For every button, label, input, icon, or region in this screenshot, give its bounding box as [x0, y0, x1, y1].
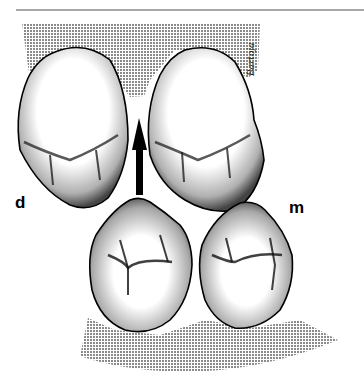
artist-signature: Bartoja	[246, 43, 256, 76]
upper-left-molar	[18, 48, 128, 208]
arrow-up-icon	[132, 118, 147, 195]
lower-right-molar	[200, 202, 293, 328]
distal-label: d	[15, 194, 25, 211]
mesial-label: m	[289, 199, 304, 216]
dental-illustration	[0, 0, 364, 386]
lower-left-molar	[90, 198, 192, 331]
